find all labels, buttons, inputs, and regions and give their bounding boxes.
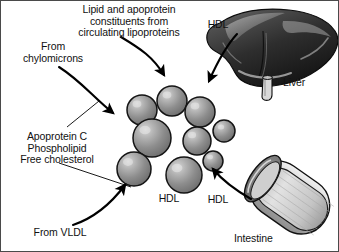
apoprotein-constituents-label: Apoprotein C Phospholipid Free cholester… [3, 131, 111, 166]
leader-chylomicrons-to-apoprotein [67, 101, 99, 127]
hdl-label-intestine: HDL [204, 194, 232, 206]
title-label: Lipid and apoprotein constituents from c… [67, 4, 191, 39]
intestine-organ [237, 149, 339, 245]
intestine-label: Intestine [234, 233, 292, 245]
diagram-artwork [1, 1, 339, 252]
hdl-particle-cluster [117, 86, 235, 193]
arrow-from-chylomicrons [59, 67, 113, 113]
hdl-metabolism-diagram: Lipid and apoprotein constituents from c… [0, 0, 339, 252]
arrow-from-vldl [73, 185, 125, 225]
arrow-circulating-lipoproteins [121, 37, 164, 75]
liver-label: Liver [283, 77, 323, 89]
from-vldl-label: From VLDL [15, 227, 105, 239]
from-chylomicrons-label: From chylomicrons [5, 41, 101, 64]
hdl-label-liver: HDL [204, 19, 232, 31]
hdl-label-cluster: HDL [155, 193, 183, 205]
